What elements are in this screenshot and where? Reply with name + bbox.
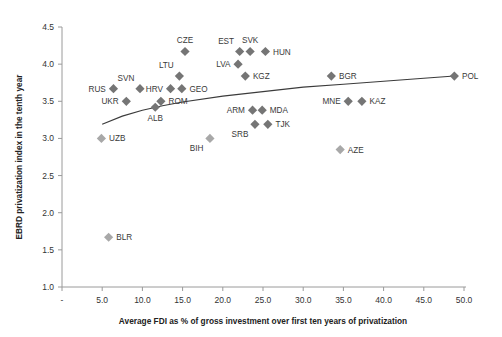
data-point-cze xyxy=(180,47,189,56)
data-point-kaz xyxy=(357,97,366,106)
data-point-hun xyxy=(261,47,270,56)
x-tick-label: 45.0 xyxy=(416,295,433,305)
point-label-svk: SVK xyxy=(242,36,259,45)
point-label-arm: ARM xyxy=(227,106,245,115)
y-tick-label: 4.5 xyxy=(42,22,54,32)
data-point-mda xyxy=(258,106,267,115)
point-label-kaz: KAZ xyxy=(369,97,385,106)
point-label-rus: RUS xyxy=(89,85,107,94)
y-tick-label: 2.0 xyxy=(42,208,54,218)
x-tick-label: 20.0 xyxy=(215,295,232,305)
x-tick-label: 50.0 xyxy=(456,295,473,305)
x-tick-label: 25.0 xyxy=(255,295,272,305)
point-label-bih: BIH xyxy=(190,144,204,153)
data-point-ukr xyxy=(122,97,131,106)
point-label-mne: MNE xyxy=(322,97,341,106)
data-point-kgz xyxy=(241,71,250,80)
x-tick-label: 15.0 xyxy=(174,295,191,305)
data-point-hrv xyxy=(166,84,175,93)
chart-canvas: 1.01.52.02.53.03.54.04.5-5.010.015.020.0… xyxy=(0,0,502,337)
x-tick-label: 40.0 xyxy=(375,295,392,305)
data-point-rom xyxy=(156,97,165,106)
data-point-bih xyxy=(205,134,214,143)
data-point-tjk xyxy=(263,120,272,129)
data-point-svn xyxy=(135,84,144,93)
x-tick-label: 5.0 xyxy=(96,295,108,305)
y-tick-label: 3.0 xyxy=(42,133,54,143)
point-label-cze: CZE xyxy=(177,36,194,45)
point-label-hrv: HRV xyxy=(146,85,164,94)
data-point-rus xyxy=(109,84,118,93)
point-label-blr: BLR xyxy=(116,233,132,242)
y-axis-title: EBRD privatization index in the tenth ye… xyxy=(14,74,24,240)
point-label-alb: ALB xyxy=(148,114,164,123)
data-point-blr xyxy=(104,233,113,242)
point-label-est: EST xyxy=(218,37,234,46)
data-point-ltu xyxy=(175,71,184,80)
y-tick-label: 1.5 xyxy=(42,245,54,255)
point-label-tjk: TJK xyxy=(275,120,290,129)
data-point-aze xyxy=(336,145,345,154)
point-label-aze: AZE xyxy=(348,146,364,155)
data-point-uzb xyxy=(97,134,106,143)
data-point-lva xyxy=(233,60,242,69)
point-label-ukr: UKR xyxy=(101,97,118,106)
x-axis-title: Average FDI as % of gross investment ove… xyxy=(119,316,407,326)
y-tick-label: 1.0 xyxy=(42,282,54,292)
point-label-lva: LVA xyxy=(216,60,231,69)
point-label-bgr: BGR xyxy=(339,72,357,81)
y-tick-label: 2.5 xyxy=(42,171,54,181)
x-tick-label: 35.0 xyxy=(335,295,352,305)
x-tick-label: - xyxy=(61,295,64,305)
data-point-est xyxy=(235,47,244,56)
data-point-srb xyxy=(250,120,259,129)
x-tick-label: 30.0 xyxy=(295,295,312,305)
point-label-ltu: LTU xyxy=(159,61,174,70)
point-label-rom: ROM xyxy=(168,97,187,106)
point-label-mda: MDA xyxy=(270,106,289,115)
point-label-pol: POL xyxy=(462,72,479,81)
scatter-chart: 1.01.52.02.53.03.54.04.5-5.010.015.020.0… xyxy=(0,0,502,337)
data-point-alb xyxy=(151,103,160,112)
point-label-kgz: KGZ xyxy=(253,72,270,81)
y-tick-label: 3.5 xyxy=(42,96,54,106)
data-point-geo xyxy=(177,84,186,93)
point-label-uzb: UZB xyxy=(109,134,126,143)
data-point-arm xyxy=(248,106,257,115)
point-label-geo: GEO xyxy=(189,85,207,94)
data-point-bgr xyxy=(327,71,336,80)
point-label-hun: HUN xyxy=(273,48,291,57)
y-tick-label: 4.0 xyxy=(42,59,54,69)
x-tick-label: 10.0 xyxy=(134,295,151,305)
data-point-mne xyxy=(344,97,353,106)
data-point-pol xyxy=(450,71,459,80)
point-label-srb: SRB xyxy=(232,130,249,139)
point-label-svn: SVN xyxy=(118,74,135,83)
data-point-svk xyxy=(246,47,255,56)
